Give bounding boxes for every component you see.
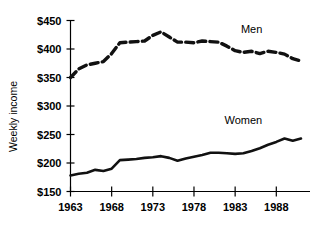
series-label-women: Women xyxy=(225,114,263,126)
weekly-income-line-chart: Weekly income $150$200$250$300$350$400$4… xyxy=(0,0,319,229)
y-tick-label: $200 xyxy=(37,157,61,169)
y-axis-title: Weekly income xyxy=(7,81,19,152)
x-axis-tick-labels: 196319681973197819831988 xyxy=(58,201,288,213)
y-tick-label: $400 xyxy=(37,43,61,55)
series-line-women xyxy=(71,138,302,175)
y-tick-label: $450 xyxy=(37,15,61,27)
y-tick-label: $250 xyxy=(37,129,61,141)
series-label-men: Men xyxy=(241,23,262,35)
y-tick-label: $300 xyxy=(37,100,61,112)
series-line-men xyxy=(71,32,302,78)
x-tick-label: 1968 xyxy=(99,201,123,213)
x-tick-label: 1983 xyxy=(223,201,247,213)
x-tick-label: 1963 xyxy=(58,201,82,213)
chart-canvas: Weekly income $150$200$250$300$350$400$4… xyxy=(0,0,319,229)
y-axis-tick-labels: $150$200$250$300$350$400$450 xyxy=(37,15,61,198)
x-tick-label: 1988 xyxy=(264,201,288,213)
y-tick-label: $150 xyxy=(37,186,61,198)
x-tick-label: 1978 xyxy=(182,201,206,213)
y-tick-label: $350 xyxy=(37,72,61,84)
x-tick-label: 1973 xyxy=(141,201,165,213)
